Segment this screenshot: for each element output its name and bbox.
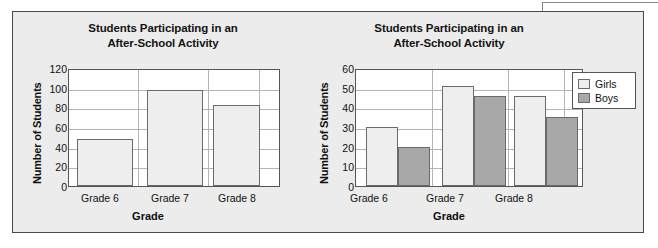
legend-label-girls: Girls bbox=[595, 79, 617, 90]
legend-swatch-girls-icon bbox=[578, 79, 590, 89]
bar-grade-6 bbox=[77, 139, 133, 186]
chart-title-left: Students Participating in an After-Schoo… bbox=[13, 21, 313, 51]
plot-area-right bbox=[355, 69, 583, 187]
chart-grouped-series: Students Participating in an After-Schoo… bbox=[313, 12, 643, 234]
y-axis-right: 0 10 20 30 40 50 60 bbox=[324, 69, 354, 187]
bar-boys-grade-8 bbox=[546, 117, 578, 186]
page-edge-rule bbox=[542, 2, 658, 3]
y-tick-label: 120 bbox=[41, 64, 67, 74]
category-separator bbox=[208, 70, 209, 186]
bar-grade-8 bbox=[213, 105, 260, 186]
y-tick-label: 20 bbox=[41, 162, 67, 172]
chart-single-series: Students Participating in an After-Schoo… bbox=[13, 12, 313, 234]
legend-item-boys: Boys bbox=[578, 91, 635, 105]
x-tick-label-grade-6: Grade 6 bbox=[60, 192, 140, 204]
x-axis-label-left: Grade bbox=[13, 210, 283, 222]
x-tick-label-grade-6: Grade 6 bbox=[325, 192, 413, 204]
category-separator bbox=[432, 70, 433, 186]
chart-title-left-line1: Students Participating in an bbox=[13, 21, 313, 36]
x-axis-label-right: Grade bbox=[313, 210, 585, 222]
y-tick-label: 0 bbox=[41, 182, 67, 192]
y-tick-label: 40 bbox=[328, 103, 354, 113]
bar-grade-7 bbox=[147, 90, 203, 186]
plot-area-left bbox=[68, 69, 280, 187]
bar-boys-grade-7 bbox=[474, 96, 506, 187]
y-tick-label: 80 bbox=[41, 103, 67, 113]
bar-boys-grade-6 bbox=[398, 147, 430, 186]
y-tick-label: 60 bbox=[328, 64, 354, 74]
bar-girls-grade-6 bbox=[366, 127, 398, 186]
category-separator bbox=[138, 70, 139, 186]
x-tick-label-grade-8: Grade 8 bbox=[470, 192, 558, 204]
bar-girls-grade-8 bbox=[514, 96, 546, 187]
y-tick-label: 20 bbox=[328, 143, 354, 153]
figure-page: Students Participating in an After-Schoo… bbox=[0, 0, 658, 248]
y-axis-left: 0 20 40 60 80 100 120 bbox=[37, 69, 67, 187]
y-tick-label: 60 bbox=[41, 123, 67, 133]
category-separator bbox=[508, 70, 509, 186]
y-tick-label: 100 bbox=[41, 84, 67, 94]
y-tick-label: 40 bbox=[41, 143, 67, 153]
y-tick-label: 50 bbox=[328, 84, 354, 94]
chart-title-left-line2: After-School Activity bbox=[13, 36, 313, 51]
bar-girls-grade-7 bbox=[442, 86, 474, 186]
y-tick-label: 30 bbox=[328, 123, 354, 133]
figure-frame: Students Participating in an After-Schoo… bbox=[12, 11, 644, 233]
chart-title-right-line1: Students Participating in an bbox=[313, 21, 585, 36]
legend-label-boys: Boys bbox=[595, 93, 618, 104]
y-tick-label: 0 bbox=[328, 182, 354, 192]
legend: Girls Boys bbox=[572, 72, 636, 109]
x-tick-label-grade-8: Grade 8 bbox=[197, 192, 277, 204]
chart-title-right: Students Participating in an After-Schoo… bbox=[313, 21, 585, 51]
chart-title-right-line2: After-School Activity bbox=[313, 36, 585, 51]
legend-swatch-boys-icon bbox=[578, 93, 590, 103]
legend-item-girls: Girls bbox=[578, 77, 635, 91]
y-tick-label: 10 bbox=[328, 162, 354, 172]
